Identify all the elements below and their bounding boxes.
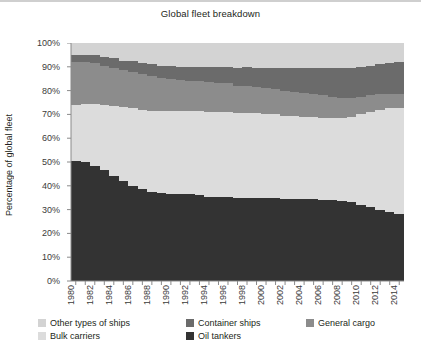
y-tick-label: 50% <box>42 157 60 167</box>
x-tick-label: 1994 <box>199 285 209 305</box>
y-tick-label: 40% <box>42 181 60 191</box>
x-tick-label: 1998 <box>237 285 247 305</box>
y-axis-label: Percentage of global fleet <box>2 70 16 260</box>
x-tick-label: 2010 <box>351 285 361 305</box>
y-tick-label: 10% <box>42 252 60 262</box>
y-tick-label: 100% <box>37 38 60 48</box>
chart-title: Global fleet breakdown <box>0 8 421 19</box>
top-divider <box>0 0 421 2</box>
legend-swatch-icon <box>186 319 194 327</box>
x-tick-label: 1980 <box>66 285 76 305</box>
legend-item[interactable]: Other types of ships <box>38 318 130 328</box>
y-tick-label: 70% <box>42 109 60 119</box>
legend-label: Bulk carriers <box>50 331 100 341</box>
stacked-area-svg <box>66 43 404 287</box>
y-tick-label: 60% <box>42 133 60 143</box>
x-tick-label: 1992 <box>180 285 190 305</box>
x-tick-label: 2000 <box>256 285 266 305</box>
x-tick-label: 2008 <box>332 285 342 305</box>
x-tick-label: 1990 <box>161 285 171 305</box>
x-tick-label: 2012 <box>370 285 380 305</box>
y-tick-label: 80% <box>42 86 60 96</box>
area-bands <box>71 43 404 281</box>
y-tick-label: 20% <box>42 228 60 238</box>
legend-item[interactable]: Container ships <box>186 318 261 328</box>
x-tick-label: 1984 <box>104 285 114 305</box>
legend-label: Other types of ships <box>50 318 130 328</box>
legend-swatch-icon <box>186 332 194 340</box>
y-axis-tick-labels: 0%10%20%30%40%50%60%70%80%90%100% <box>16 43 60 281</box>
legend-swatch-icon <box>38 332 46 340</box>
y-tick-label: 0% <box>47 276 60 286</box>
x-tick-label: 1996 <box>218 285 228 305</box>
x-tick-label: 2014 <box>389 285 399 305</box>
legend-label: Container ships <box>198 318 261 328</box>
legend-item[interactable]: Bulk carriers <box>38 331 100 341</box>
x-tick-label: 2006 <box>313 285 323 305</box>
y-axis-ticks <box>67 43 71 281</box>
y-tick-label: 90% <box>42 62 60 72</box>
x-tick-label: 1982 <box>85 285 95 305</box>
x-tick-label: 2002 <box>275 285 285 305</box>
plot-area <box>66 43 399 281</box>
legend-label: General cargo <box>318 318 375 328</box>
legend-label: Oil tankers <box>198 331 241 341</box>
chart-figure: Global fleet breakdown Percentage of glo… <box>0 0 421 364</box>
x-tick-label: 1988 <box>142 285 152 305</box>
y-tick-label: 30% <box>42 205 60 215</box>
x-tick-label: 1986 <box>123 285 133 305</box>
x-tick-label: 2004 <box>294 285 304 305</box>
chart-legend: Other types of shipsContainer shipsGener… <box>0 318 421 348</box>
legend-swatch-icon <box>38 319 46 327</box>
legend-swatch-icon <box>306 319 314 327</box>
legend-item[interactable]: Oil tankers <box>186 331 241 341</box>
legend-item[interactable]: General cargo <box>306 318 375 328</box>
